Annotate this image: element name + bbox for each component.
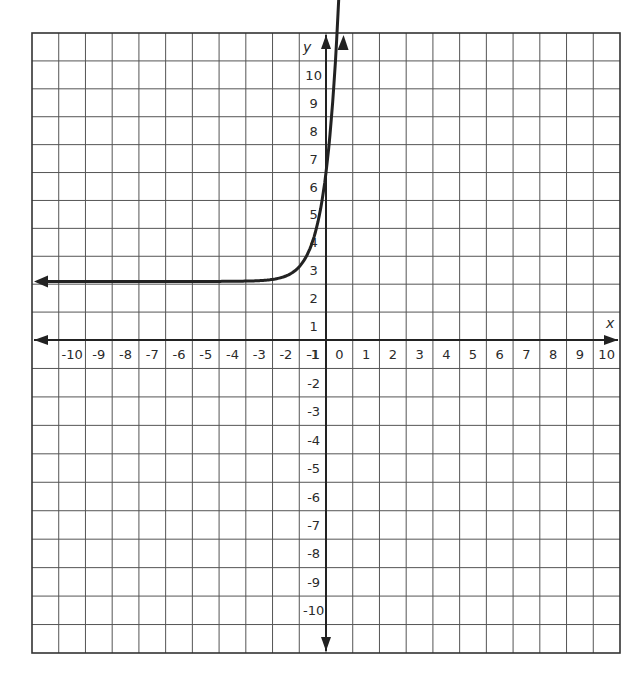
x-tick-label: 0 (335, 347, 343, 362)
y-tick-label: 8 (309, 124, 317, 139)
curve-arrow-up-icon (338, 35, 349, 50)
x-tick-labels: -10-9-8-7-6-5-4-3-2-1012345678910 (61, 347, 614, 362)
y-tick-label: 7 (309, 152, 317, 167)
x-tick-label: 9 (576, 347, 584, 362)
y-tick-label: 5 (309, 207, 317, 222)
x-tick-label: 3 (415, 347, 423, 362)
x-tick-label: -6 (173, 347, 186, 362)
y-axis-label: y (302, 39, 312, 55)
y-tick-label: -2 (307, 376, 320, 391)
x-tick-label: 7 (522, 347, 530, 362)
y-tick-label: -10 (303, 603, 324, 618)
y-tick-label: 3 (309, 263, 317, 278)
arrow-right-icon (604, 335, 618, 345)
x-tick-label: 10 (598, 347, 615, 362)
y-tick-label: -5 (307, 461, 320, 476)
arrow-left-icon (34, 335, 48, 345)
curve-line (44, 0, 342, 281)
axes (34, 35, 618, 651)
y-tick-label: -6 (307, 490, 320, 505)
x-tick-label: -10 (61, 347, 82, 362)
x-tick-label: 2 (389, 347, 397, 362)
y-tick-label: 1 (309, 319, 317, 334)
y-tick-label: -7 (307, 518, 320, 533)
x-tick-label: 8 (549, 347, 557, 362)
y-tick-label: -3 (307, 404, 320, 419)
x-tick-label: 1 (362, 347, 370, 362)
x-tick-label: 6 (496, 347, 504, 362)
y-tick-label: 6 (309, 180, 317, 195)
x-tick-label: -8 (119, 347, 132, 362)
curve-arrow-left-icon (34, 275, 48, 287)
y-tick-label: -1 (307, 347, 320, 362)
x-tick-label: -3 (253, 347, 266, 362)
x-tick-label: 4 (442, 347, 450, 362)
x-tick-label: -4 (226, 347, 239, 362)
coordinate-plane: -10-9-8-7-6-5-4-3-2-1012345678910 109876… (0, 0, 641, 675)
y-tick-label: -4 (307, 433, 320, 448)
x-tick-label: -7 (146, 347, 159, 362)
y-tick-label: 10 (305, 68, 322, 83)
y-tick-label: -9 (307, 575, 320, 590)
y-tick-label: 2 (309, 291, 317, 306)
arrow-up-icon (321, 35, 331, 49)
x-tick-label: -2 (279, 347, 292, 362)
y-tick-label: -8 (307, 546, 320, 561)
x-tick-label: 5 (469, 347, 477, 362)
y-tick-labels: 10987654321-1-2-3-4-5-6-7-8-9-10 (303, 68, 324, 618)
y-tick-label: 9 (309, 96, 317, 111)
exponential-curve (34, 0, 349, 287)
arrow-down-icon (321, 637, 331, 651)
x-tick-label: -9 (92, 347, 105, 362)
x-axis-label: x (605, 315, 615, 331)
x-tick-label: -5 (199, 347, 212, 362)
